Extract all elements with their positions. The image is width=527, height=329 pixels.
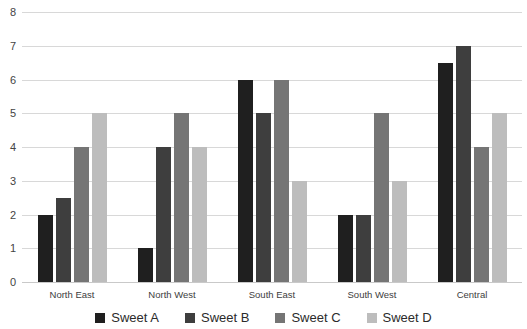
bar[interactable] (256, 113, 271, 282)
x-axis: North EastNorth WestSouth EastSouth West… (22, 286, 522, 304)
x-tick-label: North East (22, 286, 122, 304)
bar[interactable] (374, 113, 389, 282)
bar-group (422, 12, 522, 282)
gridline-0 (22, 282, 522, 283)
y-tick-label: 4 (10, 142, 16, 153)
bar[interactable] (56, 198, 71, 282)
y-tick-label: 0 (10, 277, 16, 288)
bar[interactable] (474, 147, 489, 282)
bar[interactable] (74, 147, 89, 282)
bar[interactable] (292, 181, 307, 282)
y-tick-label: 7 (10, 40, 16, 51)
legend-item[interactable]: Sweet D (367, 311, 432, 324)
y-tick-label: 5 (10, 108, 16, 119)
legend-swatch-icon (275, 313, 285, 323)
x-tick-label: Central (422, 286, 522, 304)
bar[interactable] (456, 46, 471, 282)
bar[interactable] (356, 215, 371, 283)
bar[interactable] (392, 181, 407, 282)
bar[interactable] (492, 113, 507, 282)
y-tick-label: 2 (10, 209, 16, 220)
y-axis: 012345678 (0, 0, 22, 294)
legend-item[interactable]: Sweet C (275, 311, 340, 324)
legend-swatch-icon (185, 313, 195, 323)
bar[interactable] (192, 147, 207, 282)
bar[interactable] (338, 215, 353, 283)
legend-label: Sweet D (383, 311, 432, 324)
bar[interactable] (138, 248, 153, 282)
y-tick-label: 1 (10, 243, 16, 254)
legend-swatch-icon (367, 313, 377, 323)
bar-slot (338, 12, 407, 282)
bar[interactable] (38, 215, 53, 283)
bar-slot (38, 12, 107, 282)
y-tick-label: 6 (10, 74, 16, 85)
bar[interactable] (438, 63, 453, 282)
bar[interactable] (274, 80, 289, 283)
legend: Sweet ASweet BSweet CSweet D (0, 306, 527, 329)
plot-area (22, 12, 522, 282)
bar-group (122, 12, 222, 282)
legend-swatch-icon (95, 313, 105, 323)
bar[interactable] (174, 113, 189, 282)
bar-slot (438, 12, 507, 282)
x-tick-label: South West (322, 286, 422, 304)
legend-item[interactable]: Sweet B (185, 311, 249, 324)
bar-group (22, 12, 122, 282)
legend-label: Sweet B (201, 311, 249, 324)
bar-groups (22, 12, 522, 282)
legend-item[interactable]: Sweet A (95, 311, 159, 324)
x-tick-label: South East (222, 286, 322, 304)
y-tick-label: 3 (10, 175, 16, 186)
bar-group (322, 12, 422, 282)
y-tick-label: 8 (10, 7, 16, 18)
legend-label: Sweet A (111, 311, 159, 324)
legend-label: Sweet C (291, 311, 340, 324)
bar-slot (138, 12, 207, 282)
bar[interactable] (92, 113, 107, 282)
bar-chart: 012345678 North EastNorth WestSouth East… (0, 0, 527, 329)
bar-group (222, 12, 322, 282)
x-tick-label: North West (122, 286, 222, 304)
bar-slot (238, 12, 307, 282)
bar[interactable] (238, 80, 253, 283)
bar[interactable] (156, 147, 171, 282)
